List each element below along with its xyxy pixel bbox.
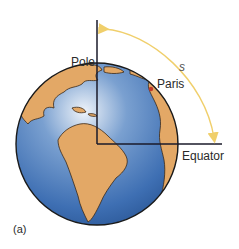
pole-label: Pole bbox=[71, 56, 95, 68]
equator-label: Equator bbox=[182, 150, 224, 162]
panel-label: (a) bbox=[13, 224, 26, 235]
earth-diagram bbox=[0, 0, 239, 249]
paris-label: Paris bbox=[157, 78, 184, 90]
arc-s-label: s bbox=[179, 61, 185, 73]
paris-marker bbox=[149, 87, 153, 91]
